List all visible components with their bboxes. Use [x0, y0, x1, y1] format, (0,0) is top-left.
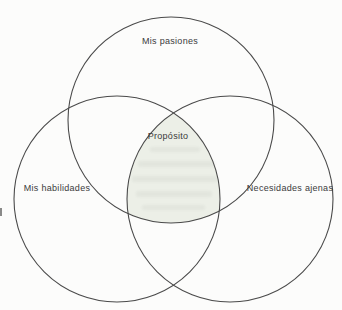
scan-edge-artifact [0, 208, 2, 216]
purpose-center-label: Propósito [148, 132, 189, 141]
triple-intersection-shade [0, 0, 342, 310]
skills-circle-label: Mis habilidades [24, 184, 91, 193]
bleedthrough-artifact [136, 191, 212, 197]
bleedthrough-artifact [150, 147, 200, 152]
bleedthrough-artifact [142, 205, 205, 210]
venn-diagram-canvas [0, 0, 342, 310]
venn-diagram-figure: Mis pasiones Propósito Mis habilidades N… [0, 0, 342, 310]
passions-circle-label: Mis pasiones [142, 37, 198, 46]
bleedthrough-artifact [132, 176, 218, 182]
needs-circle-label: Necesidades ajenas [247, 184, 333, 193]
bleedthrough-artifact [138, 161, 215, 167]
